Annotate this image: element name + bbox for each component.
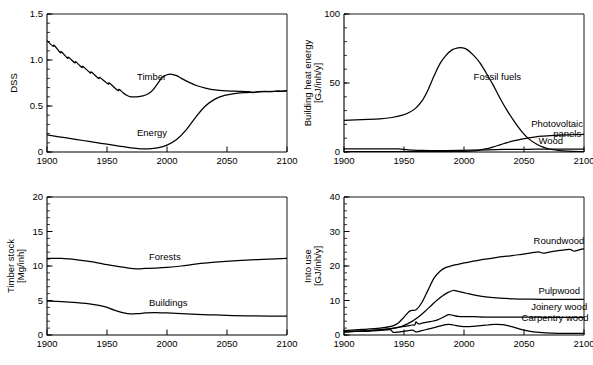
panel-building-heat-energy: 05010019001950200020502100Building heat … xyxy=(297,0,593,182)
x-tick-label: 2050 xyxy=(216,338,237,349)
y-axis-title: Timber stock[Mg/inh] xyxy=(5,239,26,293)
svg-text:Pulpwood: Pulpwood xyxy=(538,285,580,296)
plot-frame xyxy=(344,14,584,152)
x-tick-label: 2050 xyxy=(513,155,534,166)
axis-lines xyxy=(47,197,287,335)
series-line-timber xyxy=(47,41,287,97)
series-label-joinery-wood: Joinery wood xyxy=(531,301,587,312)
y-axis-title: Building heat energy[GJ/inh/y] xyxy=(302,39,323,126)
x-tick-label: 1900 xyxy=(333,155,354,166)
series-label-wood: Wood xyxy=(538,135,563,146)
svg-text:Joinery wood: Joinery wood xyxy=(531,301,587,312)
panel-timber-stock: 0510152019001950200020502100Timber stock… xyxy=(0,183,296,365)
x-tick-label: 1900 xyxy=(36,155,57,166)
x-tick-label: 2100 xyxy=(573,155,593,166)
x-tick-label: 2100 xyxy=(276,155,297,166)
x-tick-label: 2100 xyxy=(276,338,297,349)
y-axis-title: DSS xyxy=(8,73,19,93)
y-tick-label: 100 xyxy=(324,8,340,19)
series-label-fossil-fuels: Fossil fuels xyxy=(474,71,522,82)
svg-text:DSS: DSS xyxy=(8,73,19,93)
x-tick-label: 2000 xyxy=(156,155,177,166)
svg-text:[GJ/inh/y]: [GJ/inh/y] xyxy=(312,246,323,286)
x-tick-label: 2000 xyxy=(453,155,474,166)
y-tick-label: 20 xyxy=(329,260,340,271)
chart-into-use: 01020304019001950200020502100Into use[GJ… xyxy=(297,183,593,365)
svg-text:Wood: Wood xyxy=(538,135,563,146)
y-tick-label: 1.0 xyxy=(30,54,43,65)
series-label-forests: Forests xyxy=(149,251,181,262)
x-tick-label: 2050 xyxy=(216,155,237,166)
y-tick-label: 30 xyxy=(329,226,340,237)
y-tick-label: 10 xyxy=(32,260,43,271)
chart-dss: 00.51.01.519001950200020502100DSSTimberE… xyxy=(0,0,296,182)
series-label-roundwood: Roundwood xyxy=(534,235,585,246)
x-tick-label: 2000 xyxy=(156,338,177,349)
svg-text:Forests: Forests xyxy=(149,251,181,262)
series-label-timber: Timber xyxy=(137,71,166,82)
x-tick-label: 2100 xyxy=(573,338,593,349)
chart-timber-stock: 0510152019001950200020502100Timber stock… xyxy=(0,183,296,365)
x-tick-label: 1900 xyxy=(333,338,354,349)
series-label-pulpwood: Pulpwood xyxy=(538,285,580,296)
y-axis-ticks: 010203040 xyxy=(329,191,349,340)
y-tick-label: 20 xyxy=(32,191,43,202)
axis-lines xyxy=(344,14,584,152)
x-tick-label: 1900 xyxy=(36,338,57,349)
y-tick-label: 50 xyxy=(329,77,340,88)
x-tick-label: 2000 xyxy=(453,338,474,349)
panel-into-use: 01020304019001950200020502100Into use[GJ… xyxy=(297,183,593,365)
x-axis-ticks: 19001950200020502100 xyxy=(36,330,297,350)
x-tick-label: 2050 xyxy=(513,338,534,349)
series-label-energy: Energy xyxy=(137,127,167,138)
x-tick-label: 1950 xyxy=(393,155,414,166)
series-line-energy xyxy=(47,91,287,149)
chart-building-heat-energy: 05010019001950200020502100Building heat … xyxy=(297,0,593,182)
svg-text:Buildings: Buildings xyxy=(149,297,188,308)
y-tick-label: 1.5 xyxy=(30,8,43,19)
x-axis-ticks: 19001950200020502100 xyxy=(333,330,593,350)
series-label-buildings: Buildings xyxy=(149,297,188,308)
svg-text:[Mg/inh]: [Mg/inh] xyxy=(15,249,26,283)
y-axis-title: Into use[GJ/inh/y] xyxy=(302,246,323,286)
y-tick-label: 15 xyxy=(32,226,43,237)
y-axis-ticks: 050100 xyxy=(324,8,349,157)
y-tick-label: 0.5 xyxy=(30,100,43,111)
panel-dss: 00.51.01.519001950200020502100DSSTimberE… xyxy=(0,0,296,182)
x-tick-label: 1950 xyxy=(96,155,117,166)
svg-text:[GJ/inh/y]: [GJ/inh/y] xyxy=(312,63,323,103)
y-tick-label: 10 xyxy=(329,295,340,306)
figure-four-panel-wood-energy-chart: 00.51.01.519001950200020502100DSSTimberE… xyxy=(0,0,593,365)
svg-text:Fossil fuels: Fossil fuels xyxy=(474,71,522,82)
x-tick-label: 1950 xyxy=(96,338,117,349)
y-tick-label: 5 xyxy=(38,295,43,306)
x-tick-label: 1950 xyxy=(393,338,414,349)
x-axis-ticks: 19001950200020502100 xyxy=(36,147,297,167)
svg-text:Timber: Timber xyxy=(137,71,166,82)
svg-text:Roundwood: Roundwood xyxy=(534,235,585,246)
plot-frame xyxy=(47,197,287,335)
y-tick-label: 40 xyxy=(329,191,340,202)
series-label-carpentry-wood: Carpentry wood xyxy=(522,312,589,323)
y-axis-ticks: 05101520 xyxy=(32,191,52,340)
svg-text:Energy: Energy xyxy=(137,127,167,138)
svg-text:Carpentry wood: Carpentry wood xyxy=(522,312,589,323)
